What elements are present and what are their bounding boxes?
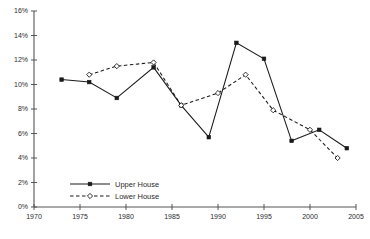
data-point-lower-house [114, 64, 119, 69]
y-tick-label: 12% [2, 56, 28, 63]
data-point-lower-house [151, 60, 156, 65]
series-markers [60, 41, 349, 161]
x-tick-label: 2000 [290, 213, 330, 220]
data-point-upper-house [290, 139, 294, 143]
legend-marker-upper-house [88, 182, 92, 186]
x-tick-label: 1975 [60, 213, 100, 220]
data-point-upper-house [262, 57, 266, 61]
legend-label-upper-house: Upper House [115, 180, 159, 189]
data-point-upper-house [152, 66, 156, 70]
x-tick-label: 1980 [106, 213, 146, 220]
axes [34, 11, 356, 207]
data-point-upper-house [115, 96, 119, 100]
y-tick-label: 8% [2, 105, 28, 112]
y-tick-label: 10% [2, 81, 28, 88]
y-tick-label: 4% [2, 154, 28, 161]
series-line-upper-house [62, 43, 347, 148]
y-tick-label: 14% [2, 32, 28, 39]
data-point-upper-house [235, 41, 239, 45]
y-tick-label: 2% [2, 179, 28, 186]
data-point-upper-house [345, 146, 349, 150]
x-tick-label: 2005 [336, 213, 370, 220]
data-point-upper-house [317, 128, 321, 132]
data-point-upper-house [207, 135, 211, 139]
y-tick-label: 16% [2, 7, 28, 14]
data-point-lower-house [87, 72, 92, 77]
x-tick-label: 1995 [244, 213, 284, 220]
legend-marker-lower-house [87, 193, 92, 198]
data-point-upper-house [60, 78, 64, 82]
x-tick-label: 1985 [152, 213, 192, 220]
series-lines [62, 43, 347, 158]
legend-glyphs [70, 182, 110, 198]
x-tick-label: 1990 [198, 213, 238, 220]
y-tick-label: 0% [2, 203, 28, 210]
x-tick-label: 1970 [14, 213, 54, 220]
chart-canvas [0, 0, 370, 239]
series-line-lower-house [89, 62, 337, 158]
data-point-upper-house [87, 80, 91, 84]
line-chart: 0%2%4%6%8%10%12%14%16% 19701975198019851… [0, 0, 370, 239]
legend-label-lower-house: Lower House [115, 192, 159, 201]
y-tick-label: 6% [2, 130, 28, 137]
